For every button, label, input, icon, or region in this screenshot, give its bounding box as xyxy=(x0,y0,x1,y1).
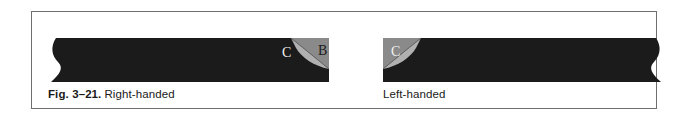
caption-text-left-handed: Left-handed xyxy=(383,88,446,100)
caption-right-handed: Fig. 3–21.Right-handed xyxy=(48,88,175,100)
band-illustration-right-handed: C B xyxy=(48,38,329,82)
label-b-left-handed: B xyxy=(423,45,433,59)
label-c-right-handed: C xyxy=(282,46,292,60)
figure-frame: C B Fig. 3–21.Right-handed C xyxy=(31,11,657,109)
caption-left-handed: Left-handed xyxy=(383,88,446,100)
figure-root: C B Fig. 3–21.Right-handed C xyxy=(0,0,688,119)
label-c-left-handed: C xyxy=(391,45,401,59)
figure-panel-left-handed: C B Left-handed xyxy=(345,12,658,110)
caption-text-right-handed: Right-handed xyxy=(104,88,174,100)
band-illustration-left-handed: C B xyxy=(383,38,664,82)
label-b-right-handed: B xyxy=(318,44,328,58)
figure-panel-right-handed: C B Fig. 3–21.Right-handed xyxy=(32,12,345,110)
figure-number: Fig. 3–21. xyxy=(48,88,101,100)
